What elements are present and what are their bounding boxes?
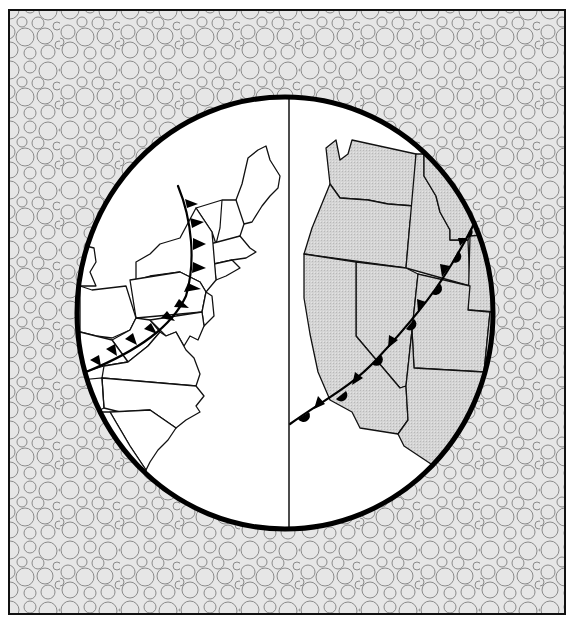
map-figure: Illustration of weather fronts over the … <box>0 0 571 628</box>
map-canvas <box>0 0 571 628</box>
